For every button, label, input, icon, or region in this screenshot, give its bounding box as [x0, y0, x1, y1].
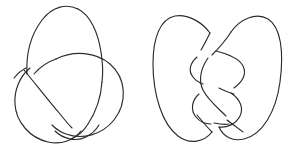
knot-diagram-figure — [0, 0, 289, 149]
figure-background — [0, 0, 289, 149]
knot-diagram-canvas — [0, 0, 289, 149]
